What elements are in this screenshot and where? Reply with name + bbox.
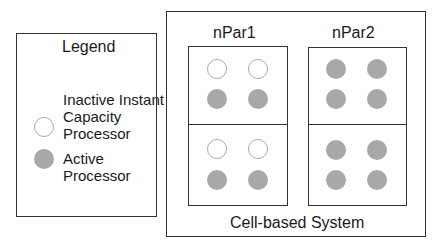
partition-npar2: [308, 47, 407, 206]
processor-inactive-icon: [207, 139, 227, 159]
cell-divider: [188, 124, 288, 125]
system-label: Cell-based System: [230, 214, 364, 231]
processor-active-icon: [326, 170, 346, 190]
processor-active-icon: [367, 170, 387, 190]
processor-active-icon: [367, 140, 387, 160]
processor-inactive-icon: [248, 59, 268, 79]
inactive-processor-icon: [34, 117, 54, 137]
legend-inactive-line3: Processor: [63, 125, 131, 142]
processor-active-icon: [207, 170, 227, 190]
active-processor-icon: [34, 149, 54, 169]
processor-active-icon: [207, 89, 227, 109]
legend-inactive-line1: Inactive Instant: [63, 91, 164, 108]
processor-active-icon: [248, 170, 268, 190]
processor-active-icon: [326, 140, 346, 160]
processor-inactive-icon: [248, 139, 268, 159]
partition-label-npar2: nPar2: [332, 24, 375, 41]
legend-title: Legend: [62, 38, 115, 55]
processor-active-icon: [326, 59, 346, 79]
partition-npar1: [188, 46, 288, 206]
processor-active-icon: [367, 59, 387, 79]
partition-label-npar1: nPar1: [213, 24, 256, 41]
legend-active-line2: Processor: [63, 167, 131, 184]
processor-active-icon: [248, 89, 268, 109]
legend-inactive-line2: Capacity: [63, 108, 121, 125]
processor-active-icon: [326, 89, 346, 109]
processor-active-icon: [367, 89, 387, 109]
processor-inactive-icon: [207, 59, 227, 79]
legend-active-line1: Active: [63, 150, 104, 167]
cell-divider: [308, 124, 407, 125]
